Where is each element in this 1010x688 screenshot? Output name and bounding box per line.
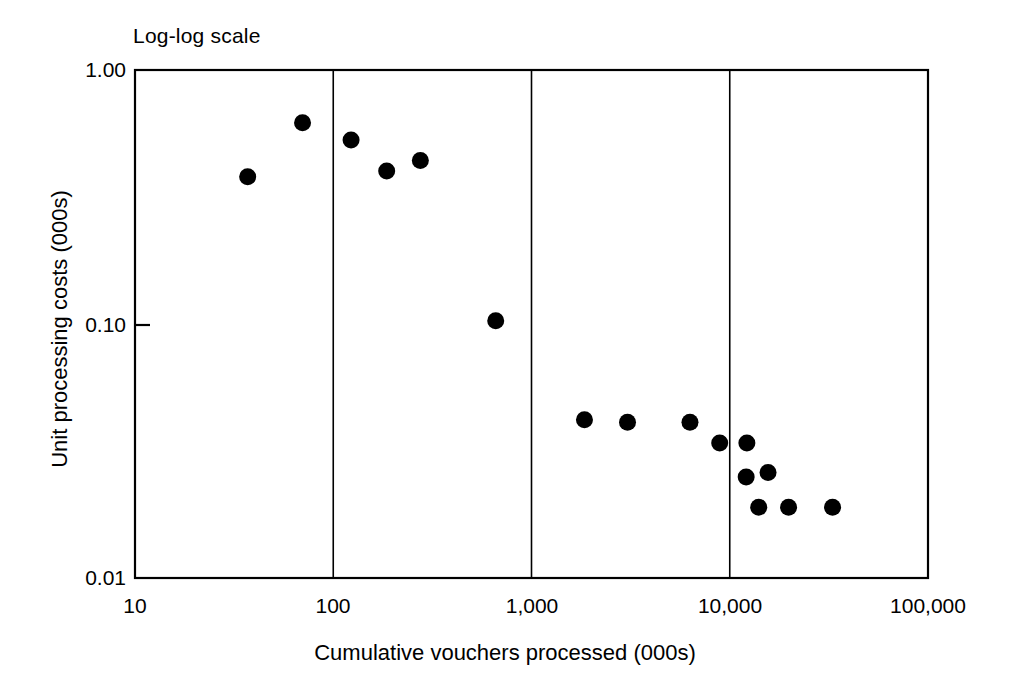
chart-figure: Log-log scale 1.00 0.10 0.01 10 100 1,00… (0, 0, 1010, 688)
data-point (711, 435, 728, 452)
data-point (412, 152, 429, 169)
data-point (681, 414, 698, 431)
plot-area (0, 0, 1010, 688)
data-point (343, 132, 360, 149)
data-point (294, 114, 311, 131)
gridlines (333, 70, 730, 578)
data-point (750, 499, 767, 516)
data-point (576, 411, 593, 428)
data-point (738, 435, 755, 452)
data-point (378, 163, 395, 180)
data-point (780, 499, 797, 516)
data-point (487, 312, 504, 329)
data-point (239, 168, 256, 185)
data-point (619, 414, 636, 431)
data-point (824, 499, 841, 516)
data-point (760, 464, 777, 481)
data-points (239, 114, 841, 515)
data-point (738, 468, 755, 485)
